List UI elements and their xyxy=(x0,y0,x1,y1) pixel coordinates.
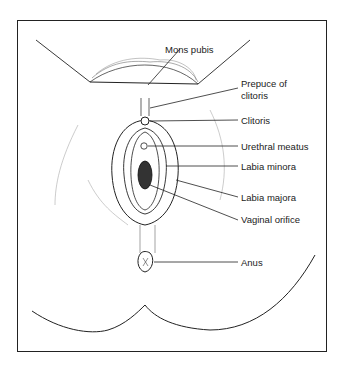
label-labia-majora: Labia majora xyxy=(241,192,296,203)
label-labia-minora: Labia minora xyxy=(241,161,296,172)
vaginal-orifice-shape xyxy=(138,161,152,189)
label-clitoris: Clitoris xyxy=(241,115,270,126)
label-anus: Anus xyxy=(241,257,263,268)
label-urethral-meatus: Urethral meatus xyxy=(241,141,309,152)
label-prepuce-line2: clitoris xyxy=(241,90,268,101)
anatomy-illustration xyxy=(0,0,344,367)
label-mons-pubis: Mons pubis xyxy=(165,44,214,55)
label-vaginal-orifice: Vaginal orifice xyxy=(241,214,300,225)
label-prepuce-line1: Prepuce of xyxy=(241,78,287,89)
